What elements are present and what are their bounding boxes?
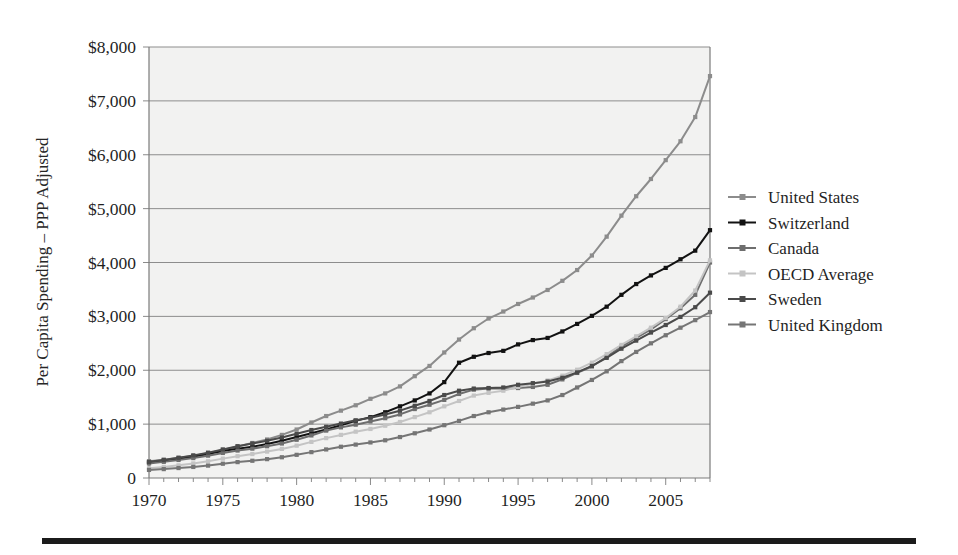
data-point-marker	[191, 465, 195, 469]
data-point-marker	[398, 409, 402, 413]
data-point-marker	[457, 419, 461, 423]
data-point-marker	[575, 385, 579, 389]
data-point-marker	[442, 380, 446, 384]
y-tick-label: $5,000	[88, 199, 136, 219]
chart-figure: $8,000$7,000$6,000$5,000$4,000$3,000$2,0…	[0, 0, 958, 555]
data-point-marker	[634, 339, 638, 343]
data-point-marker	[590, 378, 594, 382]
data-point-marker	[664, 158, 668, 162]
legend-item-canada[interactable]: Canada	[728, 239, 819, 258]
data-point-marker	[708, 74, 712, 78]
data-point-marker	[427, 427, 431, 431]
data-point-marker	[221, 457, 225, 461]
data-point-marker	[295, 432, 299, 436]
data-point-marker	[472, 414, 476, 418]
y-tick-label: 0	[127, 468, 136, 488]
data-point-marker	[664, 333, 668, 337]
data-point-marker	[413, 398, 417, 402]
data-point-marker	[398, 420, 402, 424]
data-point-marker	[531, 338, 535, 342]
data-point-marker	[147, 460, 151, 464]
data-point-marker	[235, 448, 239, 452]
data-point-marker	[427, 399, 431, 403]
x-axis-tick-labels: 19701975198019851990199520002005	[132, 490, 684, 510]
data-point-marker	[575, 370, 579, 374]
legend-marker-icon	[740, 296, 746, 302]
data-point-marker	[354, 430, 358, 434]
data-point-marker	[383, 391, 387, 395]
data-point-marker	[250, 459, 254, 463]
data-point-marker	[516, 405, 520, 409]
data-point-marker	[678, 257, 682, 261]
data-point-marker	[575, 268, 579, 272]
x-tick-label: 2000	[574, 490, 609, 510]
data-point-marker	[383, 424, 387, 428]
y-tick-label: $8,000	[88, 37, 136, 57]
data-point-marker	[678, 305, 682, 309]
data-point-marker	[619, 347, 623, 351]
data-point-marker	[634, 350, 638, 354]
data-point-marker	[531, 381, 535, 385]
data-point-marker	[235, 460, 239, 464]
data-point-marker	[560, 393, 564, 397]
data-point-marker	[309, 450, 313, 454]
data-point-marker	[472, 386, 476, 390]
x-tick-label: 2005	[648, 490, 683, 510]
data-point-marker	[324, 436, 328, 440]
data-point-marker	[295, 453, 299, 457]
data-point-marker	[368, 419, 372, 423]
data-point-marker	[486, 351, 490, 355]
legend-item-sweden[interactable]: Sweden	[728, 290, 822, 309]
data-point-marker	[176, 466, 180, 470]
data-point-marker	[590, 314, 594, 318]
data-point-marker	[354, 418, 358, 422]
data-point-marker	[649, 330, 653, 334]
data-point-marker	[472, 355, 476, 359]
data-point-marker	[649, 273, 653, 277]
bottom-rule	[42, 538, 916, 544]
data-point-marker	[427, 364, 431, 368]
data-point-marker	[605, 305, 609, 309]
data-point-marker	[486, 410, 490, 414]
data-point-marker	[368, 427, 372, 431]
data-point-marker	[472, 326, 476, 330]
data-point-marker	[383, 416, 387, 420]
data-point-marker	[442, 398, 446, 402]
data-point-marker	[176, 456, 180, 460]
data-point-marker	[501, 385, 505, 389]
data-point-marker	[457, 399, 461, 403]
data-point-marker	[486, 391, 490, 395]
legend-item-united-states[interactable]: United States	[728, 188, 859, 207]
data-point-marker	[324, 425, 328, 429]
legend-label: OECD Average	[768, 265, 874, 284]
data-point-marker	[280, 441, 284, 445]
legend-item-oecd-average[interactable]: OECD Average	[728, 265, 874, 284]
data-point-marker	[309, 440, 313, 444]
data-point-marker	[398, 404, 402, 408]
data-point-marker	[309, 428, 313, 432]
data-point-marker	[516, 302, 520, 306]
data-point-marker	[664, 323, 668, 327]
legend-item-switzerland[interactable]: Switzerland	[728, 214, 850, 233]
legend-marker-icon	[740, 245, 746, 251]
data-point-marker	[265, 444, 269, 448]
data-point-marker	[546, 379, 550, 383]
chart-legend: United StatesSwitzerlandCanadaOECD Avera…	[728, 188, 883, 335]
data-point-marker	[324, 414, 328, 418]
data-point-marker	[457, 361, 461, 365]
data-point-marker	[560, 279, 564, 283]
data-point-marker	[398, 412, 402, 416]
data-point-marker	[235, 444, 239, 448]
data-point-marker	[546, 288, 550, 292]
legend-item-united-kingdom[interactable]: United Kingdom	[728, 316, 883, 335]
data-point-marker	[413, 404, 417, 408]
data-point-marker	[531, 295, 535, 299]
data-point-marker	[501, 407, 505, 411]
x-tick-label: 1980	[279, 490, 314, 510]
data-point-marker	[693, 288, 697, 292]
data-point-marker	[664, 316, 668, 320]
data-point-marker	[590, 253, 594, 257]
data-point-marker	[678, 139, 682, 143]
data-point-marker	[649, 177, 653, 181]
data-point-marker	[413, 374, 417, 378]
